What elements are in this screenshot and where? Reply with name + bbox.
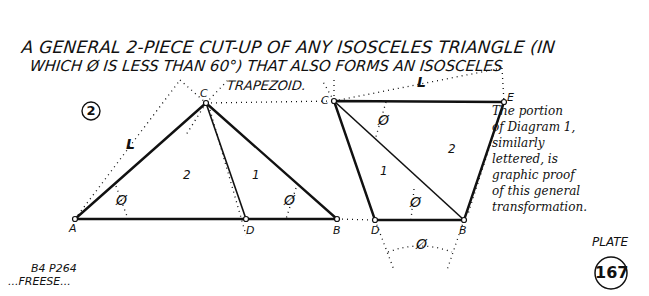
piece-2-label: 2 — [183, 168, 191, 182]
trap-vertex-b-label: B — [459, 224, 467, 237]
plate-label: PLATE — [592, 235, 628, 249]
trap-angle-phi-top: Ø — [378, 112, 389, 128]
trap-vertex-d-label: D — [371, 224, 379, 237]
vertex-a-label: A — [69, 222, 77, 235]
vertex-c-label: C — [200, 87, 208, 100]
trap-side-l-label: L — [417, 74, 426, 90]
trap-piece-2-label: 2 — [448, 142, 456, 156]
caption-text: The portion of Diagram 1, similarly lett… — [492, 103, 587, 215]
vertex-d-label: D — [246, 224, 254, 237]
footer-author: ...FREESE... — [8, 275, 71, 288]
footer-reference: B4 P264 — [31, 262, 77, 275]
vertex-b-label: B — [333, 224, 341, 237]
trap-angle-phi-below: Ø — [416, 236, 427, 252]
piece-1-label: 1 — [252, 168, 260, 182]
trap-vertex-c-label: C — [321, 94, 329, 107]
angle-phi-right: Ø — [284, 192, 295, 208]
side-l-label: L — [126, 136, 135, 152]
trap-angle-phi-bottom: Ø — [410, 194, 421, 210]
angle-phi-left: Ø — [116, 192, 127, 208]
trap-piece-1-label: 1 — [380, 164, 388, 178]
diagram-number: 2 — [84, 103, 98, 118]
plate-number: 167 — [595, 263, 627, 282]
